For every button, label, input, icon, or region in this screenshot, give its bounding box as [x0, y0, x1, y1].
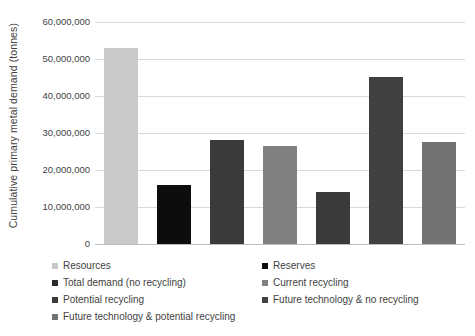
bar [157, 185, 191, 244]
bar [263, 146, 297, 244]
legend-item-label: Potential recycling [63, 295, 144, 305]
legend-swatch-icon [52, 314, 58, 320]
legend-item[interactable]: Current recycling [262, 275, 349, 290]
axis-baseline [95, 244, 465, 245]
legend-item[interactable]: Total demand (no recycling) [52, 275, 186, 290]
legend-swatch-icon [262, 297, 268, 303]
legend-swatch-icon [52, 263, 58, 269]
legend-swatch-icon [52, 297, 58, 303]
legend-item[interactable]: Potential recycling [52, 292, 144, 307]
bars-group [95, 22, 465, 244]
y-tick-label: 20,000,000 [24, 164, 90, 175]
bar [210, 140, 244, 244]
y-tick-label: 0 [24, 238, 90, 249]
y-axis-tick-labels: 010,000,00020,000,00030,000,00040,000,00… [22, 22, 90, 244]
legend-item[interactable]: Future technology & potential recycling [52, 309, 235, 324]
legend-swatch-icon [262, 280, 268, 286]
y-axis-title-text: Cumulative primary metal demand (tonnes) [7, 23, 19, 228]
y-tick-label: 50,000,000 [24, 53, 90, 64]
y-tick-label: 30,000,000 [24, 127, 90, 138]
legend-item[interactable]: Future technology & no recycling [262, 292, 419, 307]
y-tick-label: 40,000,000 [24, 90, 90, 101]
bar-chart-figure: Cumulative primary metal demand (tonnes)… [0, 0, 475, 336]
legend-swatch-icon [52, 280, 58, 286]
bar [316, 192, 350, 244]
legend-item[interactable]: Resources [52, 258, 111, 273]
bar [104, 48, 138, 244]
legend-item-label: Resources [63, 261, 111, 271]
bar [422, 142, 456, 244]
legend-item-label: Future technology & no recycling [273, 295, 419, 305]
bar [369, 77, 403, 244]
chart-legend: ResourcesTotal demand (no recycling)Pote… [52, 258, 462, 330]
plot-area [95, 22, 465, 244]
legend-swatch-icon [262, 263, 268, 269]
legend-item-label: Future technology & potential recycling [63, 312, 235, 322]
legend-item-label: Total demand (no recycling) [63, 278, 186, 288]
legend-item-label: Current recycling [273, 278, 349, 288]
y-tick-label: 60,000,000 [24, 16, 90, 27]
legend-item-label: Reserves [273, 261, 315, 271]
legend-item[interactable]: Reserves [262, 258, 315, 273]
y-tick-label: 10,000,000 [24, 201, 90, 212]
